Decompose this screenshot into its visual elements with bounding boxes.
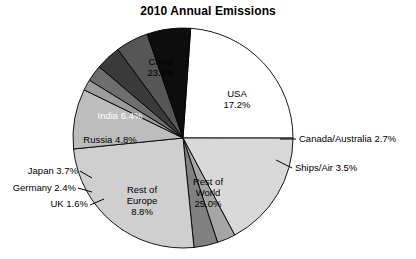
slice-label-china: China 23.9% [125, 56, 197, 78]
slice-label-india: India 6.4% [82, 110, 158, 121]
slice-label-usa: USA 17.2% [206, 88, 268, 110]
slice-label-uk: UK 1.6% [28, 198, 88, 209]
slice-label-rest-of-europe: Rest of Europe 8.8% [114, 184, 170, 217]
pie-slice-china[interactable] [183, 28, 293, 138]
slice-label-canada-australia: Canada/Australia 2.7% [299, 133, 396, 144]
slice-label-russia: Russia 4.8% [68, 134, 152, 145]
slice-label-germany: Germany 2.4% [0, 182, 76, 193]
pie-chart [0, 0, 416, 259]
slice-label-japan: Japan 3.7% [4, 165, 78, 176]
slice-label-ships-air: Ships/Air 3.5% [295, 162, 357, 173]
chart-page: 2010 Annual Emissions China 23.9% USA 17… [0, 0, 416, 259]
slice-label-rest-of-world: Rest of World 25.0% [177, 176, 239, 209]
